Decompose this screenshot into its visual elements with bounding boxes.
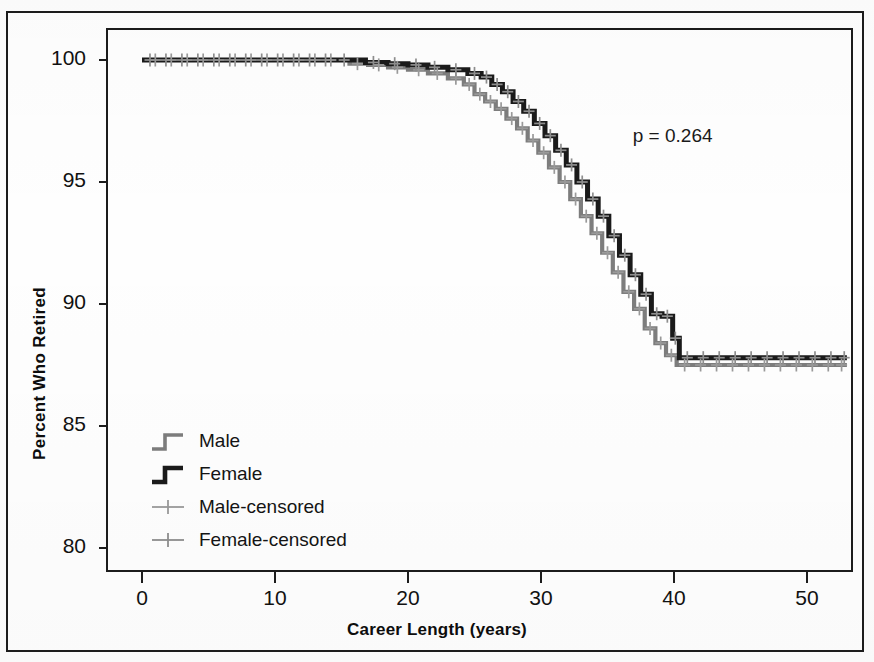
legend-label: Male <box>199 430 240 452</box>
y-tick-label: 95 <box>14 168 86 192</box>
legend-label: Female <box>199 463 262 485</box>
x-tick-label: 40 <box>644 586 704 610</box>
x-tick-label: 0 <box>112 586 172 610</box>
y-tick-label: 85 <box>14 412 86 436</box>
x-tick-label: 10 <box>245 586 305 610</box>
x-tick-label: 30 <box>511 586 571 610</box>
legend-censor-plus-icon <box>150 527 190 553</box>
chart-legend: MaleFemaleMale-censoredFemale-censored <box>150 424 347 556</box>
y-axis-title: Percent Who Retired <box>30 287 50 460</box>
legend-step-icon <box>150 428 190 454</box>
legend-item-male: Male <box>150 424 347 457</box>
p-value-annotation: p = 0.264 <box>633 125 713 147</box>
legend-item-female: Female <box>150 457 347 490</box>
x-tick-label: 50 <box>777 586 837 610</box>
legend-item-male-censored: Male-censored <box>150 490 347 523</box>
x-axis-title: Career Length (years) <box>0 620 874 640</box>
survival-curve-figure: 80859095100 01020304050 Percent Who Reti… <box>0 0 874 662</box>
legend-label: Female-censored <box>199 529 347 551</box>
y-tick-label: 80 <box>14 534 86 558</box>
legend-item-female-censored: Female-censored <box>150 523 347 556</box>
legend-censor-plus-icon <box>150 494 190 520</box>
y-tick-label: 100 <box>14 46 86 70</box>
plot-canvas <box>0 0 874 662</box>
x-tick-label: 20 <box>378 586 438 610</box>
legend-label: Male-censored <box>199 496 325 518</box>
legend-step-icon <box>150 461 190 487</box>
y-tick-label: 90 <box>14 290 86 314</box>
